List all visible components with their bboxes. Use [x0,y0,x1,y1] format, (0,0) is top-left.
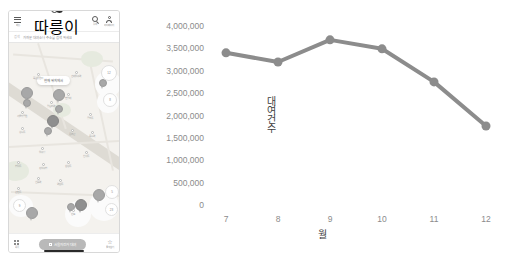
map-cluster[interactable]: 5 [105,185,119,199]
poi-label: 청담동 [15,165,21,168]
park-area [81,51,103,67]
map-pin[interactable] [75,199,87,211]
rent-bike-button[interactable]: 서울자전거 대여 [39,239,86,250]
x-axis-tick-label: 9 [328,214,333,224]
x-axis-title: 월 [128,226,516,241]
grid-icon [14,240,19,245]
map-pin[interactable] [26,207,38,219]
poi-label: 역삼동 [57,183,63,186]
poi-label: 반포 [71,213,75,216]
poi-label: 금호동 [87,117,93,120]
list-view-button[interactable]: 목록 [14,240,19,249]
poi-label: 뚝섬유원지 [33,77,43,80]
map-poi[interactable]: 역삼동 [57,179,63,186]
map-poi[interactable]: 한양대 [65,93,71,100]
rental-count-line-chart: 0500,0001,000,0001,500,0002,000,0002,500… [128,0,516,260]
list-view-label: 목록 [15,246,19,249]
poi-label: 논현동 [15,191,21,194]
y-axis-tick-label: 500,000 [173,178,204,188]
map-cluster[interactable]: 8 [103,93,117,107]
x-axis-tick-label: 8 [276,214,281,224]
map-poi[interactable]: 성수동 [19,127,25,134]
y-axis-tick-label: 2,000,000 [166,111,204,121]
map-poi[interactable]: 선릉역 [35,177,41,184]
poi-label: 선릉역 [35,181,41,184]
home-indicator [44,250,84,252]
x-axis-tick-label: 11 [430,214,439,224]
data-point-marker[interactable]: 11월: 2,750,000 [430,77,439,86]
search-label: 검색 [93,23,97,26]
poi-label: 압구정 [39,151,45,154]
map-poi[interactable]: 건대입구역 [71,71,81,78]
poi-label: 옥수역 [89,135,95,138]
app-top-bar: 메뉴 따릉이 검색 마이페이지 [9,11,119,32]
map-cluster[interactable]: 9 [13,199,26,212]
poi-label: 성수동 [19,131,25,134]
favorites-label: 즐겨찾기 [106,246,114,249]
y-axis-tick-label: 2,500,000 [166,88,204,98]
poi-label: 강남구청 [39,167,47,170]
map-poi[interactable]: 옥수역 [89,131,95,138]
poi-label: 건대입구역 [71,75,81,78]
map-poi[interactable]: 왕십리역 [47,101,55,108]
y-axis-tick-label: 0 [199,200,204,210]
line-chart-panel: 0500,0001,000,0001,500,0002,000,0002,500… [128,0,516,260]
app-logo[interactable]: 따릉이 [34,10,79,38]
map-poi[interactable]: 응봉산 [69,129,75,136]
map-cluster[interactable]: 23 [105,203,118,216]
map-pin[interactable] [23,99,31,107]
map-pin[interactable] [21,87,33,99]
search-button[interactable]: 검색 [92,16,98,27]
map-pin[interactable] [44,127,52,135]
top-bar-actions: 검색 마이페이지 [92,16,114,27]
menu-label: 메뉴 [16,24,20,27]
data-point-marker[interactable]: 10월: 3,490,000 [378,44,387,53]
poi-label: 서울숲공원 [17,115,27,118]
map-cluster[interactable]: 12 [101,65,117,81]
phone-screenshot-panel: 메뉴 따릉이 검색 마이페이지 검 [0,0,128,260]
map-poi[interactable]: 뚝섬유원지 [33,73,43,80]
profile-button[interactable]: 마이페이지 [104,16,114,27]
map-poi[interactable]: 금호동 [87,113,93,120]
star-icon: ☆ [107,239,112,245]
y-axis-tick-label: 1,500,000 [166,133,204,143]
profile-label: 마이페이지 [104,24,114,27]
poi-label: 신사동 [83,155,89,158]
poi-label: 한양대 [65,97,71,100]
map-poi[interactable]: 신사동 [83,151,89,158]
x-axis-tick-label: 7 [224,214,229,224]
y-axis-tick-label: 4,000,000 [166,21,204,31]
map-pin[interactable] [93,189,105,201]
map-poi[interactable]: 논현동 [15,187,21,194]
person-icon [106,16,113,23]
data-point-marker[interactable]: 12월: 1,765,000 [482,122,491,131]
favorites-button[interactable]: ☆ 즐겨찾기 [106,239,114,249]
poi-label: 응봉산 [69,133,75,136]
map-pin[interactable] [53,89,65,101]
data-point-marker[interactable]: 8월: 3,195,000 [274,58,283,67]
x-axis-tick-label: 10 [377,214,387,224]
map-poi[interactable]: 청담동 [15,161,21,168]
map-canvas[interactable]: 현재 위치에서 12 8 5 23 9 서울숲공원 성수동 뚝섬유원 [9,43,119,233]
page-root: 메뉴 따릉이 검색 마이페이지 검 [0,0,516,260]
search-bar[interactable]: 검색 가까운 대여소나 주소를 검색 하세요 [9,32,119,43]
map-poi[interactable]: 반포 [71,209,75,216]
y-axis-tick-label: 1,000,000 [166,155,204,165]
map-poi[interactable]: 서울숲공원 [17,111,27,118]
map-pin[interactable] [47,115,59,127]
map-poi[interactable]: 강남구청 [39,163,47,170]
phone-frame: 메뉴 따릉이 검색 마이페이지 검 [8,10,120,253]
data-point-marker[interactable]: 9월: 3,690,000 [326,35,335,44]
data-point-marker[interactable]: 7월: 3,400,000 [222,48,231,57]
map-poi[interactable]: 압구정 [39,147,45,154]
hamburger-menu-icon [14,17,21,23]
search-input[interactable]: 가까운 대여소나 주소를 검색 하세요 [23,35,72,40]
search-icon [92,16,98,22]
y-axis-title: 대여건수 [258,96,278,132]
menu-button[interactable]: 메뉴 [14,17,21,27]
app-bottom-bar: 목록 서울자전거 대여 ☆ 즐겨찾기 [9,233,119,253]
bike-logo-icon [51,10,63,13]
x-axis-tick-label: 12 [481,214,491,224]
map-pin[interactable] [55,105,63,113]
map-poi[interactable]: 삼성동 [65,161,71,168]
